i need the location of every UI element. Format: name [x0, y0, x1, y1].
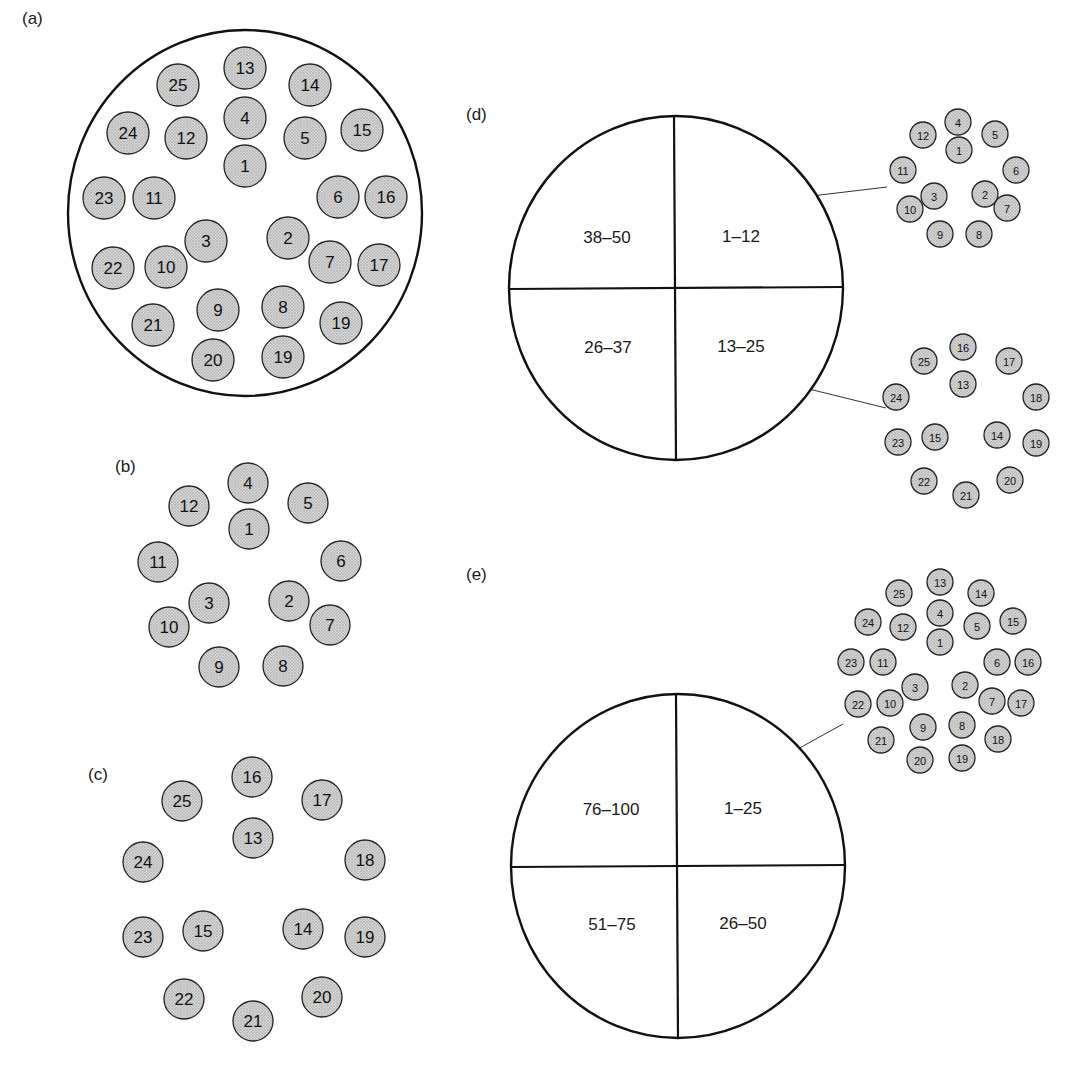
- fiber-number: 2: [283, 229, 292, 248]
- fiber-8: 8: [262, 286, 304, 328]
- fiber-number: 22: [104, 259, 123, 278]
- fiber-12: 12: [890, 614, 916, 640]
- fiber-24: 24: [855, 609, 881, 635]
- fiber-number: 9: [937, 229, 943, 241]
- fiber-2: 2: [952, 672, 978, 698]
- fiber-24: 24: [123, 842, 163, 882]
- fiber-6: 6: [321, 541, 361, 581]
- fiber-18: 18: [985, 726, 1011, 752]
- fiber-bundle-figure: 38–501–1226–3713–2576–1001–2551–7526–50 …: [0, 0, 1065, 1068]
- fiber-number: 12: [897, 622, 909, 634]
- fiber-number: 24: [862, 617, 874, 629]
- fiber-number: 11: [145, 189, 163, 208]
- fiber-number: 11: [897, 165, 908, 177]
- fiber-16: 16: [1015, 649, 1041, 675]
- fiber-number: 7: [989, 696, 995, 708]
- fiber-number: 19: [956, 753, 968, 765]
- fiber-number: 21: [144, 316, 163, 335]
- fiber-number: 9: [213, 301, 222, 320]
- fiber-number: 16: [1022, 657, 1034, 669]
- fiber-14: 14: [968, 580, 994, 606]
- fiber-21: 21: [868, 727, 894, 753]
- fiber-6: 6: [317, 176, 359, 218]
- fiber-20: 20: [997, 467, 1023, 493]
- fiber-number: 12: [180, 497, 199, 516]
- fiber-16: 16: [950, 334, 976, 360]
- fiber-number: 9: [214, 658, 223, 677]
- fiber-number: 8: [278, 657, 287, 676]
- quadrant-label: 51–75: [588, 915, 635, 934]
- fiber-16: 16: [365, 176, 407, 218]
- fiber-19: 19: [320, 302, 362, 344]
- fiber-8: 8: [966, 221, 992, 247]
- fiber-number: 10: [904, 204, 916, 216]
- quadrant-label: 38–50: [583, 228, 630, 247]
- fiber-number: 13: [236, 59, 255, 78]
- fiber-number: 5: [300, 129, 309, 148]
- fiber-number: 17: [370, 256, 389, 275]
- fiber-number: 15: [1007, 616, 1019, 628]
- fiber-6: 6: [1003, 157, 1029, 183]
- fiber-2: 2: [267, 217, 309, 259]
- fiber-number: 23: [95, 189, 114, 208]
- fiber-22: 22: [164, 979, 204, 1019]
- fiber-9: 9: [199, 647, 239, 687]
- fiber-number: 10: [157, 258, 176, 277]
- fiber-number: 2: [284, 592, 293, 611]
- fiber-number: 15: [353, 121, 372, 140]
- fiber-4: 4: [927, 600, 953, 626]
- fiber-number: 13: [934, 577, 946, 589]
- fiber-number: 5: [974, 621, 980, 633]
- fiber-number: 17: [313, 791, 332, 810]
- fiber-4: 4: [228, 463, 268, 503]
- fiber-19: 19: [345, 917, 385, 957]
- fiber-25: 25: [157, 64, 199, 106]
- fiber-number: 24: [134, 853, 153, 872]
- fiber-number: 12: [917, 130, 929, 142]
- fiber-number: 5: [303, 494, 312, 513]
- fiber-number: 3: [201, 232, 210, 251]
- fiber-9: 9: [927, 221, 953, 247]
- fiber-10: 10: [145, 246, 187, 288]
- fiber-19: 19: [1023, 430, 1049, 456]
- fiber-number: 1: [956, 145, 962, 157]
- fiber-number: 1: [240, 157, 249, 176]
- fiber-number: 6: [1013, 165, 1019, 177]
- fiber-number: 18: [992, 734, 1004, 746]
- fiber-1: 1: [946, 137, 972, 163]
- fiber-number: 7: [325, 253, 334, 272]
- fiber-14: 14: [984, 422, 1010, 448]
- fiber-number: 4: [243, 474, 252, 493]
- fiber-22: 22: [911, 468, 937, 494]
- fiber-number: 6: [333, 188, 342, 207]
- containers: 38–501–1226–3713–2576–1001–2551–7526–50: [68, 30, 845, 1038]
- cable-cross-section-d: 38–501–1226–3713–25: [509, 116, 843, 460]
- fiber-17: 17: [1008, 690, 1034, 716]
- fiber-9: 9: [910, 714, 936, 740]
- fiber-number: 2: [962, 680, 968, 692]
- fiber-number: 4: [955, 117, 961, 129]
- fiber-11: 11: [870, 649, 896, 675]
- fiber-5: 5: [284, 117, 326, 159]
- fiber-number: 1: [244, 520, 253, 539]
- fiber-8: 8: [263, 646, 303, 686]
- fiber-18: 18: [345, 840, 385, 880]
- fiber-10: 10: [897, 196, 923, 222]
- quadrant-label: 26–37: [584, 338, 631, 357]
- fiber-14: 14: [283, 909, 323, 949]
- fiber-number: 14: [975, 588, 987, 600]
- fiber-number: 3: [912, 682, 918, 694]
- fiber-number: 18: [356, 851, 375, 870]
- fiber-15: 15: [341, 109, 383, 151]
- fiber-number: 21: [244, 1012, 263, 1031]
- fiber-number: 8: [278, 298, 287, 317]
- fiber-5: 5: [964, 613, 990, 639]
- fiber-number: 16: [377, 188, 396, 207]
- fiber-11: 11: [138, 542, 178, 582]
- fiber-15: 15: [1000, 608, 1026, 634]
- fiber-5: 5: [288, 483, 328, 523]
- fiber-number: 19: [332, 314, 351, 333]
- fiber-number: 10: [884, 698, 896, 710]
- fiber-3: 3: [185, 220, 227, 262]
- fiber-3: 3: [921, 183, 947, 209]
